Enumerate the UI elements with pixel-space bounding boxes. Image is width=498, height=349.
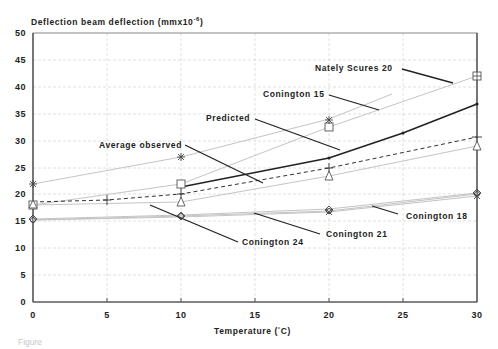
label-conington-24: Conington 24 — [242, 237, 304, 247]
x-tick: 5 — [104, 310, 110, 320]
y-tick: 45 — [15, 55, 26, 65]
label-average-observed: Average observed — [99, 140, 182, 150]
y-tick-labels: 0 5 10 15 20 25 30 35 40 45 50 — [15, 28, 26, 307]
x-tick: 30 — [471, 310, 482, 320]
label-conington-15: Conington 15 — [263, 89, 325, 99]
star-markers — [29, 116, 333, 188]
y-tick: 40 — [15, 82, 26, 92]
gridlines — [33, 33, 477, 302]
label-conington-21: Conington 21 — [326, 229, 388, 239]
label-predicted: Predicted — [206, 113, 250, 123]
x-tick: 15 — [249, 310, 260, 320]
y-tick: 35 — [15, 109, 26, 119]
x-tick: 20 — [323, 310, 334, 320]
x-axis-title: Temperature (°C) — [214, 326, 291, 336]
y-tick: 15 — [15, 216, 26, 226]
x-tick: 0 — [30, 310, 36, 320]
y-tick: 10 — [15, 243, 26, 253]
label-nately-scures-20: Nately Scures 20 — [315, 63, 393, 73]
y-tick: 30 — [15, 136, 26, 146]
y-tick: 50 — [15, 28, 26, 38]
y-tick: 25 — [15, 163, 26, 173]
figure-caption: Figure — [18, 337, 42, 347]
y-tick: 5 — [20, 270, 26, 280]
label-conington-18: Conington 18 — [406, 211, 468, 221]
y-axis-title: Deflection beam deflection (mmx10-6) — [31, 16, 203, 27]
x-tick: 25 — [397, 310, 408, 320]
deflection-chart: 0 5 10 15 20 25 30 35 40 45 50 0 5 10 15… — [0, 0, 498, 349]
x-tick-labels: 0 5 10 15 20 25 30 — [30, 310, 482, 320]
x-tick: 10 — [175, 310, 186, 320]
y-tick: 20 — [15, 189, 26, 199]
series-conington-15 — [33, 94, 392, 184]
y-tick: 0 — [20, 297, 26, 307]
